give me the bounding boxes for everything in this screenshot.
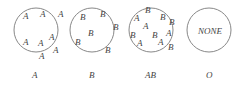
panel-caption: O xyxy=(206,70,213,80)
antigen-marker: B xyxy=(88,28,94,38)
blood-type-diagram: AAAAAAAAABBBBBBBBABBABABAABABNONEO xyxy=(0,0,245,86)
antigen-marker: B xyxy=(113,22,119,32)
antigen-marker: NONE xyxy=(197,26,223,36)
antigen-marker: B xyxy=(168,42,174,52)
antigen-marker: A xyxy=(37,38,44,48)
antigen-marker: A xyxy=(52,45,59,55)
antigen-marker: B xyxy=(130,30,136,40)
antigen-marker: B xyxy=(169,17,175,27)
antigen-marker: B xyxy=(160,12,166,22)
panel-caption: AB xyxy=(144,70,156,80)
panel-caption: B xyxy=(89,70,95,80)
panel-a: AAAAAAAAA xyxy=(14,8,64,80)
panel-ab: BABBABABAABAB xyxy=(129,5,175,80)
panel-b: BBBBBBB xyxy=(70,8,119,80)
antigen-marker: A xyxy=(57,9,64,19)
antigen-marker: A xyxy=(22,37,29,47)
antigen-marker: B xyxy=(100,9,106,19)
antigen-marker: A xyxy=(142,21,149,31)
cell-circle xyxy=(14,8,58,52)
antigen-marker: B xyxy=(145,5,151,15)
antigen-marker: A xyxy=(48,32,55,42)
panel-caption: A xyxy=(31,70,38,80)
antigen-marker: A xyxy=(38,51,45,61)
antigen-marker: A xyxy=(133,13,140,23)
antigen-marker: A xyxy=(157,37,164,47)
antigen-marker: A xyxy=(136,38,143,48)
antigen-marker: B xyxy=(75,37,81,47)
panel-o: NONEO xyxy=(187,8,231,80)
antigen-marker: B xyxy=(80,12,86,22)
antigen-marker: B xyxy=(105,45,111,55)
antigen-marker: A xyxy=(22,11,29,21)
antigen-marker: A xyxy=(39,9,46,19)
antigen-marker: A xyxy=(165,28,172,38)
